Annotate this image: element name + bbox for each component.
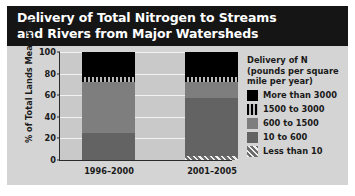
diagonal-hatch-swatch bbox=[247, 146, 258, 157]
legend-title-line-3: mile per year) bbox=[247, 76, 355, 87]
y-tick-mark bbox=[57, 73, 60, 74]
y-tick-label: 40 bbox=[45, 112, 56, 122]
bar-segment[interactable] bbox=[185, 52, 238, 77]
chart-panel: % of Total Lands Measured 02040608010019… bbox=[7, 46, 348, 185]
y-tick-label: 20 bbox=[45, 133, 56, 143]
bar-segment[interactable] bbox=[185, 98, 238, 155]
legend-item[interactable]: 1500 to 3000 bbox=[247, 104, 355, 115]
bar-segment[interactable] bbox=[82, 52, 135, 77]
y-tick-mark bbox=[57, 138, 60, 139]
y-tick-mark bbox=[57, 116, 60, 117]
chart-title-line-2: and Rivers from Major Watersheds bbox=[17, 26, 348, 42]
stacked-bar[interactable]: 1996–2000 bbox=[82, 52, 135, 160]
legend-item-label: Less than 10 bbox=[263, 146, 323, 156]
y-tick-mark bbox=[57, 52, 60, 53]
legend-item-label: 600 to 1500 bbox=[263, 118, 319, 128]
y-tick-label: 80 bbox=[45, 69, 56, 79]
y-tick-label: 60 bbox=[45, 90, 56, 100]
legend-item[interactable]: 10 to 600 bbox=[247, 132, 355, 143]
stacked-bar[interactable]: 2001–2005 bbox=[185, 52, 238, 160]
figure-root: Delivery of Total Nitrogen to Streams an… bbox=[0, 0, 355, 196]
y-tick-mark bbox=[57, 160, 60, 161]
bar-segment[interactable] bbox=[185, 82, 238, 98]
solid-black-swatch bbox=[247, 90, 258, 101]
vertical-stripe-swatch bbox=[247, 104, 258, 115]
bar-segment[interactable] bbox=[185, 156, 238, 160]
legend-item-label: 1500 to 3000 bbox=[263, 104, 325, 114]
medium-gray-swatch bbox=[247, 118, 258, 129]
chart-title-line-1: Delivery of Total Nitrogen to Streams bbox=[17, 10, 348, 26]
chart-legend: Delivery of N (pounds per square mile pe… bbox=[247, 55, 355, 157]
y-tick-label: 0 bbox=[50, 155, 56, 165]
y-tick-mark bbox=[57, 95, 60, 96]
legend-title-line-1: Delivery of N bbox=[247, 55, 355, 66]
bar-segment[interactable] bbox=[82, 77, 135, 82]
x-tick-label: 2001–2005 bbox=[172, 166, 252, 176]
chart-title-bar: Delivery of Total Nitrogen to Streams an… bbox=[7, 6, 348, 46]
bar-segment[interactable] bbox=[185, 77, 238, 82]
legend-item[interactable]: Less than 10 bbox=[247, 146, 355, 157]
y-tick-label: 100 bbox=[39, 47, 56, 57]
bar-segment[interactable] bbox=[82, 133, 135, 160]
plot-area: 0204060801001996–20002001–2005 bbox=[59, 52, 232, 161]
legend-item[interactable]: 600 to 1500 bbox=[247, 118, 355, 129]
bar-segment[interactable] bbox=[82, 82, 135, 133]
legend-item[interactable]: More than 3000 bbox=[247, 90, 355, 101]
legend-item-label: 10 to 600 bbox=[263, 132, 307, 142]
x-tick-label: 1996–2000 bbox=[69, 166, 149, 176]
legend-item-label: More than 3000 bbox=[263, 90, 337, 100]
legend-title-line-2: (pounds per square bbox=[247, 66, 355, 77]
dark-gray-swatch bbox=[247, 132, 258, 143]
y-axis-title: % of Total Lands Measured bbox=[24, 47, 34, 143]
